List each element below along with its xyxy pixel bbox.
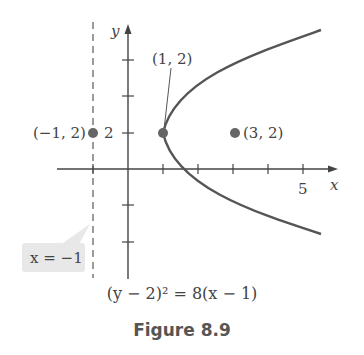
equation: (y − 2)² = 8(x − 1) [0, 284, 364, 303]
x-axis-arrow-icon [328, 166, 338, 173]
y-tick-label-2: 2 [104, 124, 114, 142]
directrix-callout: x = −1 [22, 224, 90, 272]
y-axis-label: y [110, 22, 120, 40]
vertex-label: (1, 2) [152, 50, 192, 68]
focus-label: (3, 2) [243, 124, 283, 142]
figure-caption: Figure 8.9 [0, 320, 364, 340]
vertex-point [158, 128, 168, 138]
focus-point [230, 128, 240, 138]
directrix-label: x = −1 [30, 249, 83, 267]
x-axis-label: x [330, 176, 339, 194]
x-tick-label-5: 5 [298, 180, 308, 198]
directrix-point [88, 128, 98, 138]
y-axis-arrow-icon [125, 24, 132, 34]
directrix-point-label: (−1, 2) [33, 124, 86, 142]
